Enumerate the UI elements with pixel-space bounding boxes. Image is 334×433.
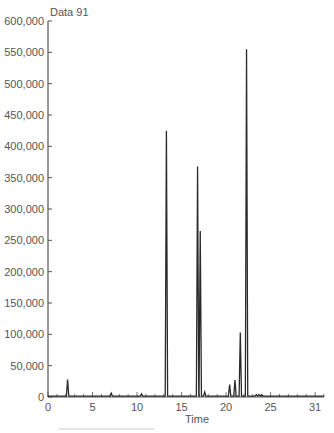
x-axis-label: Time — [185, 413, 209, 425]
y-tick-label: 350,000 — [4, 172, 44, 184]
chromatogram-chart: Data 91 050,000100,000150,000200,000250,… — [0, 0, 334, 433]
x-tick-label: 5 — [89, 401, 95, 413]
y-tick-label: 500,000 — [4, 78, 44, 90]
x-tick-label: 25 — [264, 401, 276, 413]
scan-artifact — [58, 428, 154, 430]
y-tick-label: 0 — [38, 391, 44, 403]
x-tick-label: 15 — [175, 401, 187, 413]
x-axis: 051015202531 — [45, 392, 324, 413]
x-tick-label: 0 — [45, 401, 51, 413]
y-tick-label: 150,000 — [4, 297, 44, 309]
chart-title: Data 91 — [50, 6, 89, 18]
y-tick-label: 50,000 — [10, 360, 44, 372]
y-tick-label: 400,000 — [4, 140, 44, 152]
y-tick-label: 450,000 — [4, 109, 44, 121]
x-tick-label: 20 — [220, 401, 232, 413]
y-tick-label: 200,000 — [4, 266, 44, 278]
x-tick-label: 31 — [309, 401, 321, 413]
x-tick-label: 10 — [131, 401, 143, 413]
y-tick-label: 100,000 — [4, 328, 44, 340]
y-tick-label: 250,000 — [4, 234, 44, 246]
y-tick-label: 300,000 — [4, 203, 44, 215]
y-axis: 050,000100,000150,000200,000250,000300,0… — [4, 15, 52, 403]
y-tick-label: 600,000 — [4, 15, 44, 27]
data-series — [48, 49, 324, 396]
y-tick-label: 550,000 — [4, 46, 44, 58]
